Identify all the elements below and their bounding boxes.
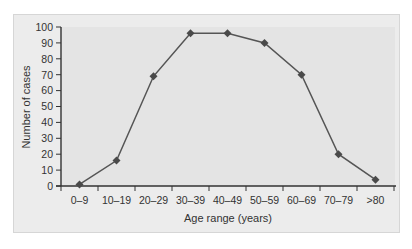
diamond-marker bbox=[76, 180, 84, 188]
x-tick-label: 40–49 bbox=[213, 194, 242, 206]
y-axis-title: Number of cases bbox=[20, 65, 32, 149]
y-tick-label: 50 bbox=[41, 100, 53, 112]
x-tick-label: >80 bbox=[367, 194, 385, 206]
x-tick-label: 0–9 bbox=[71, 194, 89, 206]
diamond-marker bbox=[224, 29, 232, 37]
y-tick-label: 10 bbox=[41, 164, 53, 176]
y-tick-label: 0 bbox=[47, 180, 53, 192]
y-tick-label: 60 bbox=[41, 84, 53, 96]
line-chart: 0102030405060708090100 0–910–1920–2930–3… bbox=[0, 0, 412, 249]
y-tick-label: 40 bbox=[41, 116, 53, 128]
x-axis-title: Age range (years) bbox=[184, 212, 272, 224]
y-tick-label: 90 bbox=[41, 37, 53, 49]
y-tick-label: 30 bbox=[41, 132, 53, 144]
y-tick-label: 80 bbox=[41, 53, 53, 65]
y-axis: 0102030405060708090100 bbox=[35, 21, 61, 192]
y-tick-label: 100 bbox=[35, 21, 53, 33]
y-tick-label: 20 bbox=[41, 148, 53, 160]
diamond-marker bbox=[113, 157, 121, 165]
x-tick-label: 50–59 bbox=[250, 194, 279, 206]
x-tick-label: 60–69 bbox=[287, 194, 316, 206]
y-tick-label: 70 bbox=[41, 69, 53, 81]
x-tick-label: 30–39 bbox=[176, 194, 205, 206]
x-tick-label: 10–19 bbox=[102, 194, 131, 206]
x-tick-label: 20–29 bbox=[139, 194, 168, 206]
data-series bbox=[76, 29, 380, 188]
x-axis: 0–910–1920–2930–3940–4950–5960–6970–79>8… bbox=[56, 186, 396, 206]
series-line bbox=[80, 33, 376, 184]
x-tick-label: 70–79 bbox=[324, 194, 353, 206]
